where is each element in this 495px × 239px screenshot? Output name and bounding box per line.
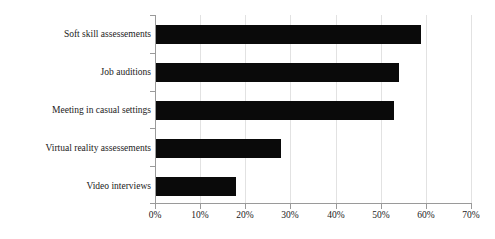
- category-axis-labels: Soft skill assessements Job auditions Me…: [0, 0, 155, 239]
- bar-job-auditions: [155, 63, 399, 82]
- gridline-70: [471, 15, 472, 203]
- category-label-job-auditions: Job auditions: [5, 67, 155, 78]
- x-axis-tick-label-30: 30%: [270, 209, 310, 221]
- gridline-60: [426, 15, 427, 203]
- category-label-soft-skill-assessements: Soft skill assessements: [5, 29, 155, 40]
- category-label-video-interviews: Video interviews: [5, 181, 155, 192]
- bar-soft-skill-assessements: [155, 25, 421, 44]
- x-axis-tick-label-20: 20%: [225, 209, 265, 221]
- bar-video-interviews: [155, 177, 236, 196]
- x-axis-tick-label-40: 40%: [316, 209, 356, 221]
- bar-meeting-in-casual-settings: [155, 101, 394, 120]
- x-axis-tick-label-0: 0%: [135, 209, 175, 221]
- y-axis-line: [155, 15, 156, 204]
- x-axis-tick-label-60: 60%: [406, 209, 446, 221]
- bar-virtual-reality-assessements: [155, 139, 281, 158]
- x-axis-tick-label-70: 70%: [451, 209, 491, 221]
- plot-area: [155, 15, 471, 203]
- category-label-virtual-reality-assessements: Virtual reality assessements: [5, 143, 155, 154]
- bar-chart: Soft skill assessements Job auditions Me…: [0, 0, 495, 239]
- x-axis-line: [155, 203, 472, 204]
- category-label-meeting-in-casual-settings: Meeting in casual settings: [5, 105, 155, 116]
- x-axis-tick-label-50: 50%: [361, 209, 401, 221]
- x-axis-tick-label-10: 10%: [180, 209, 220, 221]
